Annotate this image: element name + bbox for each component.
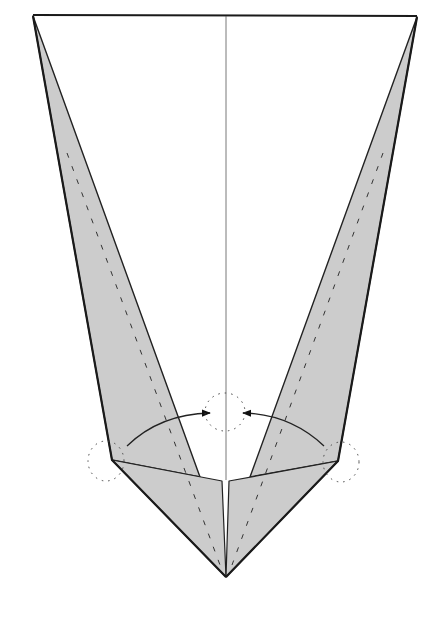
origami-diagram [0, 0, 437, 622]
top-edge [33, 15, 417, 16]
